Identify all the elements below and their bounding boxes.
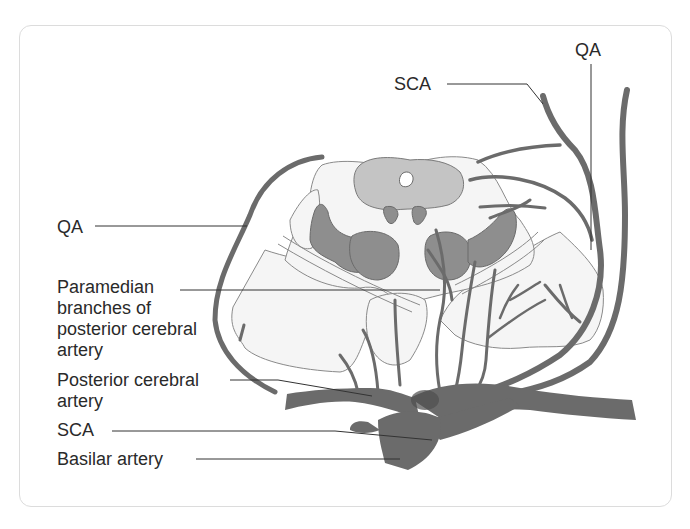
- label-qa-top: QA: [575, 40, 601, 61]
- label-basilar-artery: Basilar artery: [57, 449, 163, 470]
- bifurcation-shadow: [411, 390, 439, 410]
- label-paramedian-branches: Paramedian branches of posterior cerebra…: [57, 277, 207, 361]
- posterior-cerebral-artery-trunk: [285, 383, 636, 470]
- basilar-artery: [378, 411, 441, 470]
- label-qa-left: QA: [57, 217, 83, 238]
- label-sca-top: SCA: [394, 74, 431, 95]
- label-posterior-cerebral-artery: Posterior cerebral artery: [57, 370, 232, 412]
- left-sca-stub: [350, 421, 380, 433]
- cerebral-aqueduct: [399, 172, 413, 187]
- label-sca-bottom: SCA: [57, 420, 94, 441]
- leader-sca-top: [447, 84, 543, 104]
- right-posterior-cerebral-artery: [410, 383, 636, 420]
